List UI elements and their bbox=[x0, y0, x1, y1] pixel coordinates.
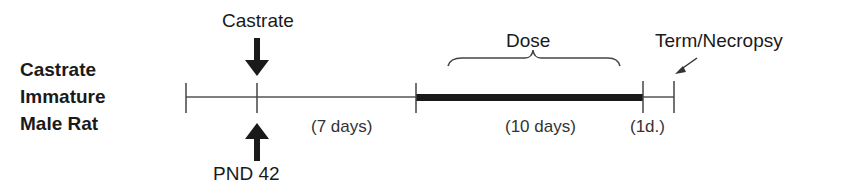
down-arrow-icon bbox=[245, 38, 269, 76]
term-arrow-icon bbox=[675, 58, 697, 74]
pnd-label: PND 42 bbox=[213, 163, 280, 185]
dose-brace bbox=[448, 50, 620, 66]
dose-label: Dose bbox=[506, 30, 550, 52]
dose-bar bbox=[416, 94, 643, 101]
duration-post-label: (1d.) bbox=[630, 117, 665, 137]
castrate-label: Castrate bbox=[222, 10, 294, 32]
duration-dose-label: (10 days) bbox=[505, 117, 576, 137]
term-label: Term/Necropsy bbox=[655, 30, 783, 52]
duration-pre-label: (7 days) bbox=[311, 117, 372, 137]
up-arrow-icon bbox=[245, 123, 269, 161]
